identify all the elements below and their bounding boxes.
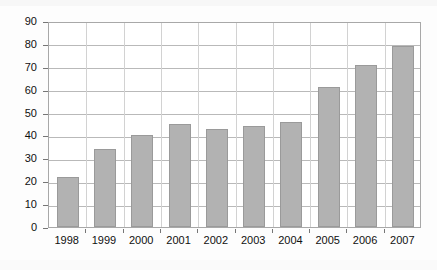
y-tick-mark-0 <box>43 228 48 229</box>
x-tick-label-1998: 1998 <box>48 234 85 247</box>
bar-2003[interactable] <box>243 126 265 227</box>
bar-2000[interactable] <box>131 135 153 227</box>
x-tick-label-2001: 2001 <box>160 234 197 247</box>
bar-1998[interactable] <box>57 177 79 227</box>
x-axis: 1998199920002001200220032004200520062007 <box>48 234 421 254</box>
x-tick-mark-1999 <box>123 229 124 233</box>
x-tick-label-2003: 2003 <box>235 234 272 247</box>
x-tick-mark-1998 <box>85 229 86 233</box>
bar-2005[interactable] <box>318 87 340 227</box>
x-tick-label-2004: 2004 <box>272 234 309 247</box>
plot-area <box>48 22 421 228</box>
bar-chart-figure: 0102030405060708090 19981999200020012002… <box>0 0 437 270</box>
x-tick-label-2006: 2006 <box>346 234 383 247</box>
bar-2001[interactable] <box>169 124 191 227</box>
bar-2007[interactable] <box>392 46 414 227</box>
bar-2004[interactable] <box>280 122 302 227</box>
x-tick-mark-2005 <box>346 229 347 233</box>
x-tick-mark-2003 <box>272 229 273 233</box>
x-tick-mark-2006 <box>384 229 385 233</box>
x-tick-mark-2004 <box>309 229 310 233</box>
x-tick-label-2002: 2002 <box>197 234 234 247</box>
x-tick-mark-2000 <box>160 229 161 233</box>
bars-layer <box>49 23 420 227</box>
x-tick-mark-2001 <box>197 229 198 233</box>
x-tick-label-1999: 1999 <box>85 234 122 247</box>
bar-1999[interactable] <box>94 149 116 227</box>
x-tick-label-2005: 2005 <box>309 234 346 247</box>
x-tick-label-2000: 2000 <box>123 234 160 247</box>
x-tick-label-2007: 2007 <box>384 234 421 247</box>
bar-2002[interactable] <box>206 129 228 227</box>
x-tick-mark-2002 <box>235 229 236 233</box>
bar-2006[interactable] <box>355 65 377 228</box>
